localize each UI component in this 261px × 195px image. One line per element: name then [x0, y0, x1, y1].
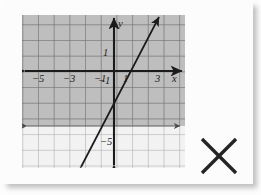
- x-tick-label-1: 1: [123, 74, 128, 85]
- y-axis-label: y: [118, 19, 123, 30]
- plotted-line: [81, 17, 159, 167]
- x-tick-label--5: −5: [32, 74, 44, 85]
- x-tick-label-3: 3: [155, 74, 160, 85]
- graph-figure: −5 −3 −1 1 3 1 −1 −5 y x: [0, 0, 261, 195]
- coordinate-plane: −5 −3 −1 1 3 1 −1 −5 y x: [22, 15, 185, 168]
- y-tick-label--1: −1: [98, 76, 110, 87]
- x-tick-label--3: −3: [63, 74, 75, 85]
- y-tick-label--5: −5: [100, 137, 112, 148]
- incorrect-x-icon: [197, 134, 241, 178]
- y-tick-label-1: 1: [103, 48, 108, 59]
- x-axis-label: x: [172, 74, 177, 85]
